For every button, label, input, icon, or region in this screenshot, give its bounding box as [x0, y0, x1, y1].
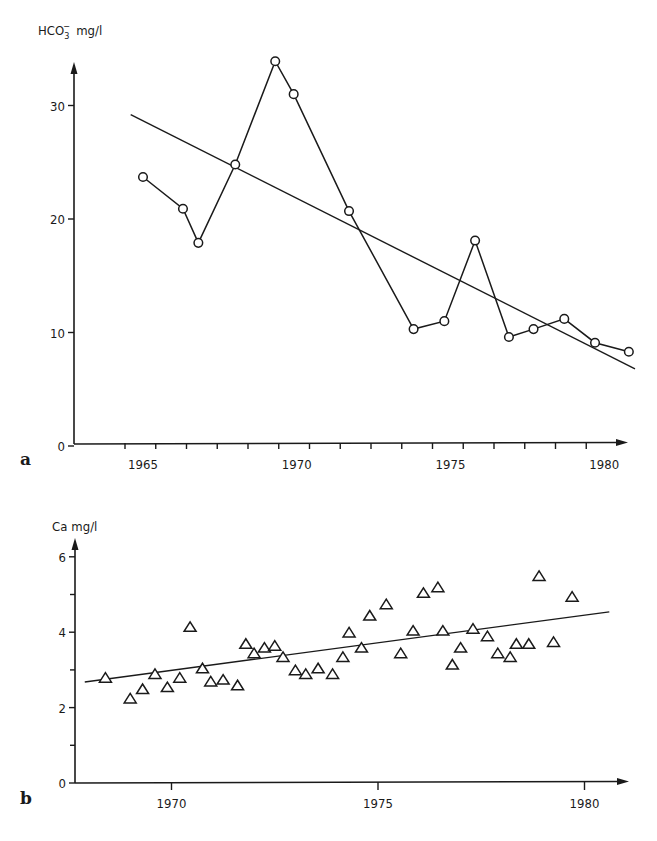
- y-tick-label: 20: [50, 212, 65, 227]
- axes-a: [71, 62, 629, 446]
- triangle-marker-icon: [161, 682, 173, 692]
- x-axis-line: [75, 782, 621, 784]
- data-series-a: [139, 57, 633, 356]
- circle-marker-icon: [505, 333, 514, 342]
- triangle-marker-icon: [269, 641, 281, 651]
- y-axis-title-main: Ca: [52, 519, 67, 534]
- triangle-marker-icon: [205, 676, 217, 686]
- circle-marker-icon: [471, 236, 480, 245]
- axes-b: [72, 538, 630, 785]
- x-tick-label: 1980: [589, 457, 619, 472]
- triangle-marker-icon: [504, 652, 516, 662]
- y-axis-title-superscript: −: [63, 21, 70, 31]
- y-axis-title-b: Camg/l: [52, 519, 97, 534]
- triangle-marker-icon: [523, 639, 535, 649]
- panel-label-b: b: [20, 788, 32, 808]
- trend-line-a: [131, 115, 635, 369]
- y-tick-label: 0: [59, 776, 66, 791]
- triangle-marker-icon: [312, 663, 324, 673]
- triangle-marker-icon: [446, 659, 458, 669]
- x-axis-arrow-icon: [616, 439, 628, 446]
- triangle-marker-icon: [240, 639, 252, 649]
- circle-marker-icon: [591, 338, 600, 347]
- triangle-marker-icon: [380, 599, 392, 609]
- series-line: [143, 61, 629, 352]
- x-tick-label: 1975: [436, 457, 466, 472]
- triangle-marker-icon: [395, 648, 407, 658]
- y-axis-title-subscript: 3: [64, 31, 69, 41]
- circle-marker-icon: [529, 325, 538, 334]
- circle-marker-icon: [560, 315, 569, 324]
- triangle-marker-icon: [327, 669, 339, 679]
- triangle-marker-icon: [533, 571, 545, 581]
- x-tick-label: 1970: [157, 796, 187, 811]
- figure: HCO3−mg/l 01020301965197019751980 a Camg…: [0, 0, 657, 841]
- triangle-marker-icon: [566, 592, 578, 602]
- triangle-marker-icon: [217, 675, 229, 685]
- y-axis-arrow-icon: [71, 62, 78, 74]
- chart-panel-a: HCO3−mg/l 01020301965197019751980 a: [20, 21, 635, 472]
- triangle-marker-icon: [99, 673, 111, 683]
- y-axis-title-unit: mg/l: [76, 23, 102, 38]
- y-axis-title-main: HCO: [38, 23, 64, 38]
- y-tick-label: 30: [50, 99, 65, 114]
- panel-label-a: a: [20, 449, 31, 469]
- triangle-marker-icon: [124, 693, 136, 703]
- circle-marker-icon: [409, 325, 418, 334]
- triangle-marker-icon: [455, 643, 467, 653]
- y-tick-label: 0: [58, 439, 65, 454]
- circle-marker-icon: [179, 204, 188, 213]
- y-tick-label: 10: [50, 326, 65, 341]
- triangle-marker-icon: [467, 624, 479, 634]
- triangle-marker-icon: [343, 627, 355, 637]
- circle-marker-icon: [345, 207, 354, 216]
- y-axis-title-unit: mg/l: [71, 519, 97, 534]
- circle-marker-icon: [440, 317, 449, 326]
- circle-marker-icon: [625, 347, 634, 356]
- ticks-a: 01020301965197019751980: [50, 99, 619, 473]
- chart-panel-b: Camg/l 0246197019751980 b: [20, 519, 629, 811]
- triangle-marker-icon: [196, 663, 208, 673]
- circle-marker-icon: [271, 57, 280, 66]
- triangle-marker-icon: [184, 622, 196, 632]
- triangle-marker-icon: [481, 631, 493, 641]
- y-axis-arrow-icon: [72, 538, 79, 550]
- triangle-marker-icon: [510, 639, 522, 649]
- data-series-b: [99, 571, 578, 703]
- triangle-marker-icon: [289, 665, 301, 675]
- triangle-marker-icon: [492, 648, 504, 658]
- triangle-marker-icon: [137, 684, 149, 694]
- triangle-marker-icon: [232, 680, 244, 690]
- triangle-marker-icon: [364, 610, 376, 620]
- x-tick-label: 1975: [363, 796, 393, 811]
- triangle-marker-icon: [437, 626, 449, 636]
- triangle-marker-icon: [174, 673, 186, 683]
- x-axis-arrow-icon: [617, 778, 629, 785]
- circle-marker-icon: [139, 173, 148, 182]
- ticks-b: 0246197019751980: [59, 550, 600, 811]
- triangle-marker-icon: [432, 582, 444, 592]
- y-tick-label: 4: [59, 625, 66, 640]
- triangle-marker-icon: [417, 588, 429, 598]
- y-tick-label: 6: [59, 550, 66, 565]
- circle-marker-icon: [289, 90, 298, 99]
- x-tick-label: 1965: [128, 457, 158, 472]
- x-tick-label: 1980: [570, 796, 600, 811]
- x-tick-label: 1970: [282, 457, 312, 472]
- triangle-marker-icon: [548, 637, 560, 647]
- triangle-marker-icon: [407, 626, 419, 636]
- y-tick-label: 2: [59, 701, 66, 716]
- trend-line: [131, 115, 635, 369]
- circle-marker-icon: [194, 239, 203, 248]
- triangle-marker-icon: [248, 648, 260, 658]
- y-axis-title-a: HCO3−mg/l: [38, 21, 102, 41]
- triangle-marker-icon: [337, 652, 349, 662]
- circle-marker-icon: [231, 160, 240, 169]
